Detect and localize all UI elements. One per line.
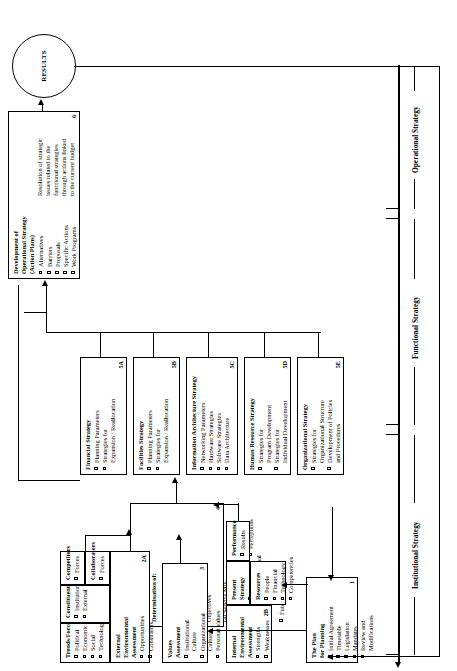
list-item: Economic xyxy=(81,628,89,658)
arrow-head-left xyxy=(395,662,401,668)
list-item: External xyxy=(81,590,89,618)
band-separator xyxy=(414,67,415,91)
box-competitors-header: Competitors xyxy=(64,556,72,580)
box-operational-strategy[interactable]: Development of Operational Strategy (Act… xyxy=(8,111,80,279)
connector-line xyxy=(46,285,47,333)
band-tick xyxy=(386,66,399,67)
box-collaborators[interactable]: Collaborators Forces xyxy=(85,551,110,585)
box-external-assessment[interactable]: External Environmental Assessment Opport… xyxy=(110,551,150,663)
list-item: Work Programs xyxy=(70,202,78,274)
connector-line xyxy=(218,504,239,505)
list-item: Strategies for Expansion / Reallocation xyxy=(101,362,117,470)
box-operational-strategy-header: Development of Operational Strategy (Act… xyxy=(12,116,35,274)
box-organizational-strategy[interactable]: Organizational Strategy Strategies for O… xyxy=(297,357,344,475)
connector-line xyxy=(42,104,43,111)
feedback-line xyxy=(24,312,46,313)
box-internal-assessment[interactable]: Internal Environmental Assessment Streng… xyxy=(226,605,272,663)
box-constituents[interactable]: Constituents Institution External xyxy=(60,585,110,623)
feedback-line xyxy=(439,66,440,657)
box-present-strategy-header: Present Strategy xyxy=(230,566,246,600)
box-trends-forces[interactable]: Trends/Forces Political Economic Social … xyxy=(60,623,110,663)
box-human-resource-strategy-header: Human Resource Strategy xyxy=(248,362,256,470)
arrow-head-left xyxy=(328,575,334,581)
arrow-head-up xyxy=(327,654,333,660)
list-item: Technological xyxy=(97,628,105,658)
list-item: Institution xyxy=(73,590,81,618)
box-plan-for-planning[interactable]: The Plan for Planning Initial Agreement … xyxy=(306,577,358,663)
connector-line xyxy=(85,535,130,536)
box-present-strategy[interactable]: Present Strategy Institutional Organizat… xyxy=(226,561,250,605)
box-human-resource-strategy[interactable]: Human Resource Strategy Strategies for P… xyxy=(244,357,291,475)
box-trends-forces-header: Trends/Forces xyxy=(64,628,72,658)
feedback-line xyxy=(332,656,440,657)
feedback-line xyxy=(18,480,80,481)
box-facilities-strategy-header: Facilities Strategy xyxy=(137,362,145,470)
box-external-assessment-header: External Environmental Assessment xyxy=(114,556,137,658)
band-tick xyxy=(386,654,399,655)
arrow-head-up xyxy=(207,628,213,634)
list-item: Forces xyxy=(73,556,81,580)
band-tick xyxy=(386,424,399,425)
list-item: Hardware Strategies xyxy=(207,362,215,470)
box-facilities-strategy[interactable]: Facilities Strategy Planning Parameters … xyxy=(133,357,180,475)
list-item: Proposals xyxy=(54,202,62,274)
box-number: 5D xyxy=(281,361,289,369)
list-item: Personal Values xyxy=(214,568,222,658)
connector-line xyxy=(318,332,319,357)
box-internal-assessment-header: Internal Environmental Assessment xyxy=(230,610,253,658)
arrow-head-right xyxy=(42,280,48,286)
list-item: Results xyxy=(239,526,247,556)
list-item: Social xyxy=(89,628,97,658)
connector-line xyxy=(286,584,308,585)
band-tick xyxy=(386,434,399,435)
band-rail xyxy=(398,65,400,663)
connector-line xyxy=(180,539,181,563)
results-label: RESULTS xyxy=(40,50,48,81)
box-information-architecture-strategy[interactable]: Information Architecture Strategy Networ… xyxy=(186,357,238,475)
box-financial-strategy[interactable]: Financial Strategy Planning Parameters S… xyxy=(80,357,127,475)
box-number: 5E xyxy=(334,361,342,368)
feedback-line xyxy=(18,285,19,481)
box-collaborators-header: Collaborators xyxy=(89,556,97,580)
list-item: Software Strategies xyxy=(215,362,223,470)
connector-line xyxy=(85,535,86,551)
list-item: Specific Actions xyxy=(62,202,70,274)
band-tick xyxy=(386,218,399,219)
band-separator xyxy=(414,597,415,655)
connector-line xyxy=(208,332,209,357)
arrow-head-right xyxy=(38,99,44,105)
box-performance[interactable]: Performance Results Perceptions xyxy=(226,521,250,561)
list-item: Data Architecture xyxy=(223,362,231,470)
list-item: Barriers xyxy=(46,202,54,274)
list-item: Perceptions xyxy=(247,526,255,556)
list-item: Strategies for Organizational Structure xyxy=(310,362,326,470)
list-item: Strengths xyxy=(254,610,262,658)
box-number: 1 xyxy=(348,581,356,584)
list-item: Alternatives xyxy=(37,202,45,274)
list-item: Timetable xyxy=(335,582,343,658)
band-separator xyxy=(414,367,415,425)
list-item: Planning Parameters xyxy=(93,362,101,470)
band-separator xyxy=(414,435,415,503)
connector-line xyxy=(153,332,154,357)
connector-line xyxy=(212,630,306,631)
list-item: Constraints xyxy=(147,556,155,658)
arrow-head-up xyxy=(213,502,219,508)
list-item: Institutional Culture xyxy=(183,568,199,658)
list-item: Initial Agreement xyxy=(327,582,335,658)
list-item: Legislation xyxy=(343,582,351,658)
list-item: Review and Modifications xyxy=(359,582,375,658)
box-values-assessment[interactable]: Values Assessment Institutional Culture … xyxy=(162,563,208,663)
band-separator xyxy=(414,219,415,279)
band-label-institutional: Institutional Strategy xyxy=(411,521,420,589)
connector-line xyxy=(238,503,239,521)
connector-line xyxy=(176,483,177,503)
list-item: Mandates xyxy=(351,582,359,658)
connector-line xyxy=(100,332,101,357)
list-item: Weaknesses xyxy=(263,610,271,658)
box-operational-strategy-note: Resolution of strategic issues related t… xyxy=(36,116,78,196)
box-constituents-header: Constituents xyxy=(64,590,72,618)
box-competitors[interactable]: Competitors Forces xyxy=(60,551,85,585)
results-node: RESULTS xyxy=(12,34,76,98)
band-label-operational: Operational Strategy xyxy=(411,106,420,173)
